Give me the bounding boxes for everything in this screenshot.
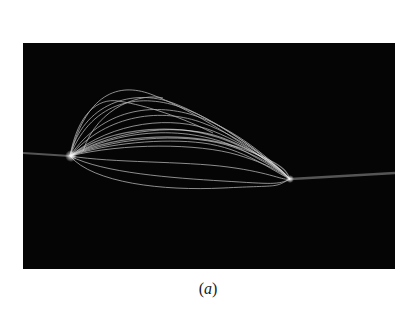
photo-panel [23, 43, 395, 269]
trace-image [23, 43, 395, 269]
caption-paren-close: ) [212, 280, 217, 297]
figure: (a) [0, 0, 416, 321]
caption-letter: a [204, 280, 212, 297]
figure-caption: (a) [0, 280, 416, 298]
